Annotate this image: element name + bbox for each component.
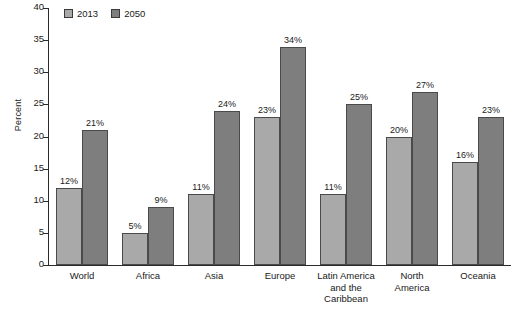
category-label-line: Africa xyxy=(115,270,181,282)
y-tick-label: 30 xyxy=(33,65,44,76)
bar-group-inner: 16%23% xyxy=(445,8,511,265)
bar-2050: 24% xyxy=(214,8,240,265)
bar-2050: 25% xyxy=(346,8,372,265)
bar-value-label: 12% xyxy=(60,177,78,186)
bar-rect xyxy=(320,194,346,265)
x-axis-line xyxy=(48,265,511,266)
bar-value-label: 25% xyxy=(350,93,368,102)
y-tick-mark xyxy=(43,137,48,138)
y-tick-mark xyxy=(43,8,48,9)
bar-2050: 23% xyxy=(478,8,504,265)
bar-group: 16%23% xyxy=(445,8,511,265)
bar-rect xyxy=(214,111,240,265)
y-tick-label: 40 xyxy=(33,1,44,12)
bar-group-inner: 23%34% xyxy=(247,8,313,265)
bar-value-label: 5% xyxy=(128,222,141,231)
category-label-line: Asia xyxy=(181,270,247,282)
category-label-line: North xyxy=(379,270,445,282)
bar-rect xyxy=(346,104,372,265)
bar-value-label: 21% xyxy=(86,119,104,128)
y-tick-label: 5 xyxy=(39,226,44,237)
bar-2050: 34% xyxy=(280,8,306,265)
y-axis-title: Percent xyxy=(13,75,23,155)
bar-rect xyxy=(452,162,478,265)
y-tick-label: 25 xyxy=(33,97,44,108)
category-label-line: America xyxy=(379,282,445,294)
x-axis-category-labels: WorldAfricaAsiaEuropeLatin Americaand th… xyxy=(49,270,511,316)
bar-rect xyxy=(148,207,174,265)
bar-value-label: 23% xyxy=(482,106,500,115)
bar-value-label: 11% xyxy=(192,183,209,192)
bar-group-inner: 5%9% xyxy=(115,8,181,265)
category-label: NorthAmerica xyxy=(379,270,445,293)
category-label: Africa xyxy=(115,270,181,282)
bar-2050: 21% xyxy=(82,8,108,265)
category-label-line: Caribbean xyxy=(313,293,379,305)
category-label-line: Oceania xyxy=(445,270,511,282)
bar-rect xyxy=(386,137,412,266)
bar-value-label: 20% xyxy=(390,126,408,135)
category-label-line: Latin America xyxy=(313,270,379,282)
bar-value-label: 11% xyxy=(324,183,341,192)
y-tick-label: 15 xyxy=(33,162,44,173)
category-label: World xyxy=(49,270,115,282)
bar-rect xyxy=(56,188,82,265)
y-tick-mark xyxy=(43,40,48,41)
y-tick-label: 0 xyxy=(39,258,44,269)
category-label-line: and the xyxy=(313,282,379,294)
bar-group-inner: 12%21% xyxy=(49,8,115,265)
bar-2050: 9% xyxy=(148,8,174,265)
bar-chart: Percent 4035302520151050 2013 2050 12%21… xyxy=(0,0,516,318)
bar-value-label: 27% xyxy=(416,81,434,90)
y-tick-mark xyxy=(43,201,48,202)
category-label: Europe xyxy=(247,270,313,282)
bar-group: 11%25% xyxy=(313,8,379,265)
bar-group: 12%21% xyxy=(49,8,115,265)
bar-value-label: 34% xyxy=(284,36,302,45)
bar-rect xyxy=(478,117,504,265)
y-tick-mark xyxy=(43,233,48,234)
bar-rect xyxy=(280,47,306,265)
category-label: Latin Americaand theCaribbean xyxy=(313,270,379,305)
bar-2050: 27% xyxy=(412,8,438,265)
bar-2013: 23% xyxy=(254,8,280,265)
bar-group-inner: 11%25% xyxy=(313,8,379,265)
y-tick-label: 35 xyxy=(33,33,44,44)
bar-value-label: 24% xyxy=(218,100,236,109)
bar-2013: 20% xyxy=(386,8,412,265)
bar-group-inner: 20%27% xyxy=(379,8,445,265)
bar-group: 5%9% xyxy=(115,8,181,265)
y-tick-label: 10 xyxy=(33,194,44,205)
y-tick-mark xyxy=(43,104,48,105)
bar-group: 11%24% xyxy=(181,8,247,265)
bar-group-inner: 11%24% xyxy=(181,8,247,265)
bar-2013: 11% xyxy=(320,8,346,265)
bar-rect xyxy=(412,92,438,265)
y-tick-mark xyxy=(43,265,48,266)
category-label-line: World xyxy=(49,270,115,282)
category-label: Asia xyxy=(181,270,247,282)
y-tick-label: 20 xyxy=(33,130,44,141)
bar-rect xyxy=(82,130,108,265)
category-label: Oceania xyxy=(445,270,511,282)
bar-value-label: 16% xyxy=(456,151,474,160)
category-label-line: Europe xyxy=(247,270,313,282)
bar-2013: 16% xyxy=(452,8,478,265)
y-tick-mark xyxy=(43,72,48,73)
plot-area: 12%21%5%9%11%24%23%34%11%25%20%27%16%23% xyxy=(49,8,511,265)
bar-group: 20%27% xyxy=(379,8,445,265)
bar-2013: 12% xyxy=(56,8,82,265)
bar-group: 23%34% xyxy=(247,8,313,265)
bar-2013: 11% xyxy=(188,8,214,265)
bar-value-label: 9% xyxy=(154,196,167,205)
bar-rect xyxy=(188,194,214,265)
bar-rect xyxy=(122,233,148,265)
bar-2013: 5% xyxy=(122,8,148,265)
bar-value-label: 23% xyxy=(258,106,276,115)
y-tick-mark xyxy=(43,169,48,170)
bar-rect xyxy=(254,117,280,265)
